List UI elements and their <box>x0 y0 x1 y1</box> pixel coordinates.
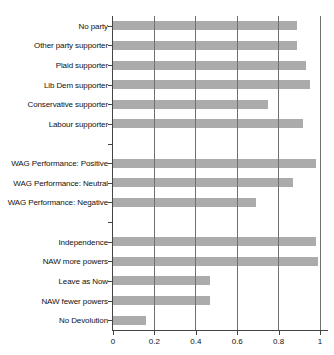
bar <box>113 257 318 266</box>
gridline <box>195 16 196 330</box>
y-tick-mark <box>108 301 112 302</box>
y-tick-mark <box>108 45 112 46</box>
category-label: Lib Dem supporter <box>0 80 108 89</box>
x-tick-mark <box>196 331 197 335</box>
category-label: No party <box>0 21 108 30</box>
x-tick-mark <box>320 331 321 335</box>
x-tick-label: 0.6 <box>222 337 252 346</box>
x-tick-mark <box>113 331 114 335</box>
gridline <box>237 16 238 330</box>
y-tick-mark <box>108 85 112 86</box>
bar <box>113 198 256 207</box>
bar <box>113 61 306 70</box>
bar <box>113 119 303 128</box>
x-tick-label: 0.8 <box>264 337 294 346</box>
category-label: NAW fewer powers <box>0 296 108 305</box>
y-tick-mark <box>108 202 112 203</box>
category-label: NAW more powers <box>0 257 108 266</box>
x-axis-line <box>112 330 328 331</box>
x-tick-label: 1 <box>305 337 334 346</box>
bar-chart: No partyOther party supporterPlaid suppo… <box>0 0 334 355</box>
category-labels: No partyOther party supporterPlaid suppo… <box>0 0 108 355</box>
category-label: No Devolution <box>0 316 108 325</box>
y-tick-mark <box>108 65 112 66</box>
y-tick-mark <box>108 281 112 282</box>
category-label: Plaid supporter <box>0 61 108 70</box>
category-label: Other party supporter <box>0 41 108 50</box>
category-label: WAG Performance: Neutral <box>0 178 108 187</box>
x-tick-mark <box>237 331 238 335</box>
gridline <box>320 16 321 330</box>
category-label: WAG Performance: Positive <box>0 159 108 168</box>
bar <box>113 316 146 325</box>
y-tick-mark <box>108 124 112 125</box>
bar <box>113 80 310 89</box>
category-label: WAG Performance: Negative <box>0 198 108 207</box>
bar <box>113 178 293 187</box>
category-label: Labour supporter <box>0 119 108 128</box>
bar <box>113 21 297 30</box>
category-label: Independence <box>0 237 108 246</box>
y-tick-mark <box>108 222 112 223</box>
y-tick-mark <box>108 104 112 105</box>
x-tick-label: 0.4 <box>181 337 211 346</box>
y-tick-mark <box>108 242 112 243</box>
y-tick-mark <box>108 144 112 145</box>
y-tick-mark <box>108 163 112 164</box>
x-tick-label: 0.2 <box>139 337 169 346</box>
gridline <box>154 16 155 330</box>
y-tick-mark <box>108 261 112 262</box>
y-tick-mark <box>108 320 112 321</box>
bar <box>113 41 297 50</box>
y-tick-mark <box>108 26 112 27</box>
bar <box>113 237 316 246</box>
bar <box>113 100 268 109</box>
bar <box>113 159 316 168</box>
x-tick-mark <box>279 331 280 335</box>
gridline <box>278 16 279 330</box>
x-tick-label: 0 <box>98 337 128 346</box>
y-tick-mark <box>108 183 112 184</box>
plot-area <box>113 16 320 330</box>
category-label: Conservative supporter <box>0 100 108 109</box>
x-tick-mark <box>154 331 155 335</box>
category-label: Leave as Now <box>0 276 108 285</box>
